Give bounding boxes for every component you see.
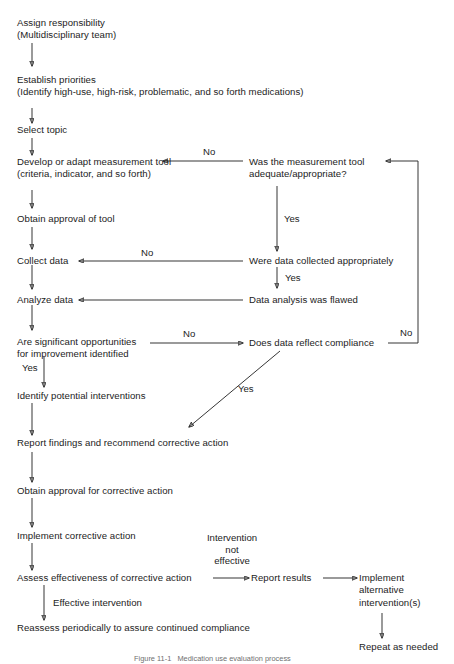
node-compliance-line1: Does data reflect compliance	[249, 337, 374, 348]
node-repeat-as-needed: Repeat as needed	[359, 641, 438, 653]
node-opportunity-line1: Are significant opportunities	[17, 336, 136, 348]
edge-label-yes-opportunity-identify: Yes	[22, 362, 38, 374]
edge-label-effective-intervention: Effective intervention	[53, 597, 142, 609]
edge-label-intervention-not-effective: Intervention not effective	[196, 532, 268, 567]
node-assign-line2: (Multidisciplinary team)	[17, 29, 116, 41]
node-implement-corrective-action: Implement corrective action	[17, 530, 136, 542]
node-wastool-line2: adequate/appropriate?	[249, 168, 365, 180]
node-does-data-reflect-compliance: Does data reflect compliance	[249, 337, 374, 349]
node-identify-interventions: Identify potential interventions	[17, 390, 146, 402]
edge-label-yes-compliance-report: Yes	[238, 383, 254, 395]
edge-label-no-weredata-collect: No	[141, 247, 153, 259]
node-altimpl-line1: Implement	[359, 572, 421, 584]
node-opportunity-line2: for improvement identified	[17, 348, 136, 360]
node-report-findings: Report findings and recommend corrective…	[17, 437, 228, 449]
node-approval-line1: Obtain approval of tool	[17, 213, 115, 224]
node-priorities-line1: Establish priorities	[17, 74, 304, 86]
edge-label-no-wastool-develop: No	[203, 146, 215, 158]
node-altimpl-line2: alternative	[359, 584, 421, 596]
node-obtain-approval-corrective: Obtain approval for corrective action	[17, 485, 173, 497]
node-assess-effectiveness: Assess effectiveness of corrective actio…	[17, 572, 192, 584]
node-select-topic: Select topic	[17, 124, 67, 136]
node-develop-measurement-tool: Develop or adapt measurement tool (crite…	[17, 156, 171, 181]
node-develop-line1: Develop or adapt measurement tool	[17, 156, 171, 168]
node-weredata-line1: Were data collected appropriately	[249, 255, 393, 266]
edge-label-ineff-line1: Intervention	[196, 532, 268, 544]
node-collect-data: Collect data	[17, 255, 68, 267]
node-repeat-line1: Repeat as needed	[359, 641, 438, 652]
node-altimpl-line3: intervention(s)	[359, 597, 421, 609]
edge-label-no-opportunity-compliance: No	[183, 328, 195, 340]
node-data-analysis-flawed: Data analysis was flawed	[249, 294, 358, 306]
node-reassess-line1: Reassess periodically to assure continue…	[17, 622, 250, 633]
node-reassess-periodically: Reassess periodically to assure continue…	[17, 622, 250, 634]
edge-label-yes-wastool-weredata: Yes	[284, 213, 300, 225]
edge-label-no-compliance-wastool: No	[400, 327, 412, 339]
node-priorities-line2: (Identify high-use, high-risk, problemat…	[17, 86, 304, 98]
node-analyze-data: Analyze data	[17, 294, 73, 306]
node-assign-line1: Assign responsibility	[17, 17, 116, 29]
node-were-data-collected: Were data collected appropriately	[249, 255, 393, 267]
edge-label-ineff-line2: not	[196, 544, 268, 556]
node-assign-responsibility: Assign responsibility (Multidisciplinary…	[17, 17, 116, 42]
edge-label-ineff-line3: effective	[196, 555, 268, 567]
figure-caption: Figure 11-1 Medication use evaluation pr…	[134, 654, 291, 663]
edge-compliance-to-wastool	[386, 161, 418, 343]
node-analyze-line1: Analyze data	[17, 294, 73, 305]
node-collect-line1: Collect data	[17, 255, 68, 266]
node-results-line1: Report results	[251, 572, 311, 583]
node-develop-line2: (criteria, indicator, and so forth)	[17, 168, 171, 180]
figure-caption-text: Medication use evaluation process	[177, 654, 290, 663]
node-topic-line1: Select topic	[17, 124, 67, 135]
node-assess-line1: Assess effectiveness of corrective actio…	[17, 572, 192, 583]
figure-canvas: Assign responsibility (Multidisciplinary…	[0, 0, 454, 664]
node-report-results: Report results	[251, 572, 311, 584]
node-implement-alternative-intervention: Implement alternative intervention(s)	[359, 572, 421, 609]
node-report-line1: Report findings and recommend corrective…	[17, 437, 228, 448]
node-flawed-line1: Data analysis was flawed	[249, 294, 358, 305]
node-wastool-line1: Was the measurement tool	[249, 156, 365, 168]
node-establish-priorities: Establish priorities (Identify high-use,…	[17, 74, 304, 99]
node-implement-line1: Implement corrective action	[17, 530, 136, 541]
node-identify-line1: Identify potential interventions	[17, 390, 146, 401]
node-significant-opportunities: Are significant opportunities for improv…	[17, 336, 136, 361]
edge-compliance-to-report	[189, 351, 280, 427]
node-approve2-line1: Obtain approval for corrective action	[17, 485, 173, 496]
node-was-measurement-tool-adequate: Was the measurement tool adequate/approp…	[249, 156, 365, 181]
node-obtain-approval-of-tool: Obtain approval of tool	[17, 213, 115, 225]
edge-label-yes-weredata-flawed: Yes	[285, 272, 301, 284]
figure-caption-label: Figure 11-1	[134, 654, 171, 663]
